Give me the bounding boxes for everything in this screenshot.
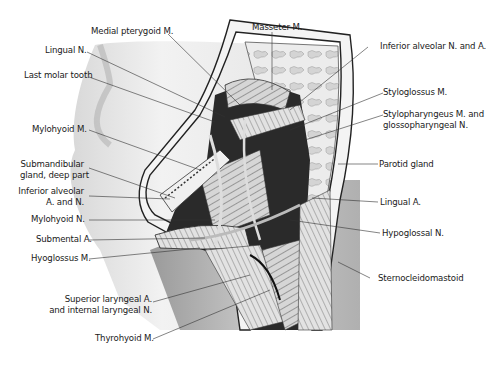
label-mylohyoid-muscle: Mylohyoid M. [32, 124, 87, 135]
label-lingual-artery: Lingual A. [380, 197, 421, 208]
label-submandibular-line1: Submandibular [20, 159, 84, 170]
label-inferior-alveolar-line2: A. and N. [12, 197, 84, 208]
label-inferior-alveolar-nerve-artery: Inferior alveolar N. and A. [380, 41, 486, 52]
label-last-molar-tooth: Last molar tooth [24, 70, 92, 81]
label-sternocleidomastoid: Sternocleidomastoid [378, 273, 463, 284]
label-superior-laryngeal-line2: and internal laryngeal N. [40, 305, 152, 316]
label-stylopharyngeus: Stylopharyngeus M. and glossopharyngeal … [383, 109, 484, 130]
label-styloglossus-muscle: Styloglossus M. [383, 87, 447, 98]
anatomy-figure: Medial pterygoid M. Lingual N. Last mola… [0, 0, 498, 369]
label-stylopharyngeus-line2: glossopharyngeal N. [383, 120, 484, 131]
label-superior-laryngeal: Superior laryngeal A. and internal laryn… [40, 294, 152, 315]
label-parotid-gland: Parotid gland [379, 159, 434, 170]
label-submandibular-line2: gland, deep part [20, 170, 84, 181]
label-thyrohyoid-muscle: Thyrohyoid M. [95, 333, 154, 344]
label-mylohyoid-nerve: Mylohyoid N. [31, 214, 85, 225]
label-medial-pterygoid: Medial pterygoid M. [91, 26, 173, 37]
label-submandibular-gland: Submandibular gland, deep part [20, 159, 84, 180]
label-lingual-nerve: Lingual N. [45, 45, 87, 56]
label-superior-laryngeal-line1: Superior laryngeal A. [40, 294, 152, 305]
label-hypoglossal-nerve: Hypoglossal N. [382, 228, 444, 239]
label-submental-artery: Submental A. [36, 234, 92, 245]
label-inferior-alveolar-artery-nerve: Inferior alveolar A. and N. [12, 186, 84, 207]
label-inferior-alveolar-line1: Inferior alveolar [12, 186, 84, 197]
label-masseter-muscle: Masseter M. [252, 22, 302, 33]
label-hyoglossus-muscle: Hyoglossus M. [31, 253, 91, 264]
label-stylopharyngeus-line1: Stylopharyngeus M. and [383, 109, 484, 120]
